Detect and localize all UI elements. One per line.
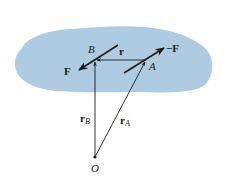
label-neg-f: −F [166,42,179,54]
couple-moment-diagram: B r A F −F rB rA O [0,0,228,183]
label-origin: O [91,162,99,174]
label-f: F [64,65,71,77]
label-b: B [88,43,95,55]
rigid-body-shape [15,26,212,92]
label-r: r [119,45,124,57]
label-r-a: rA [120,114,130,128]
origin-point [93,155,96,158]
label-r-b: rB [80,112,90,126]
label-a: A [148,60,156,72]
